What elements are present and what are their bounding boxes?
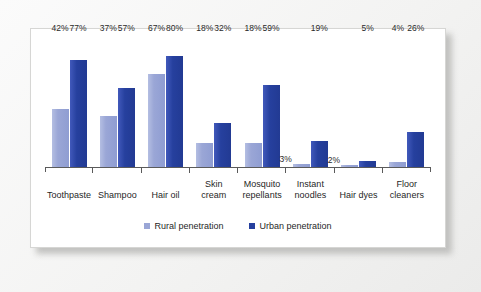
category-label-line1: Mosquito xyxy=(244,179,281,189)
bar-value-label: 19% xyxy=(311,23,328,33)
category-label-line1: Floor xyxy=(397,179,418,189)
bar-wrapper: 42% xyxy=(52,35,69,168)
x-axis-tick xyxy=(335,168,383,173)
x-axis-tick xyxy=(45,168,93,173)
category-label: Floorcleaners xyxy=(377,179,437,201)
bar-group: 18%32%Skincream xyxy=(190,35,238,241)
bar-urban[interactable]: 80% xyxy=(166,56,183,168)
x-axis-tick xyxy=(142,168,190,173)
bar-value-label: 67% xyxy=(148,23,165,33)
bar-urban[interactable]: 26% xyxy=(407,132,424,168)
bar-value-label: 3% xyxy=(279,154,292,164)
bar-value-label: 57% xyxy=(118,23,135,33)
bar-wrapper: 5% xyxy=(359,35,376,168)
bar-value-label: 32% xyxy=(214,23,231,33)
category-label-line1: Toothpaste xyxy=(47,190,91,200)
bar-wrapper: 37% xyxy=(100,35,117,168)
bar-value-label: 26% xyxy=(407,23,424,33)
bar-rural[interactable]: 18% xyxy=(196,143,213,168)
category-label-line1: Hair dyes xyxy=(340,190,378,200)
bar-urban[interactable]: 32% xyxy=(214,123,231,168)
bar-rural[interactable]: 37% xyxy=(100,116,117,168)
legend-item-urban[interactable]: Urban penetration xyxy=(249,221,331,231)
bar-urban[interactable]: 59% xyxy=(263,85,280,168)
x-axis-tick xyxy=(93,168,141,173)
bar-urban[interactable]: 19% xyxy=(311,141,328,168)
x-axis-tick xyxy=(238,168,286,173)
legend-item-rural[interactable]: Rural penetration xyxy=(144,221,223,231)
bar-wrapper: 59% xyxy=(263,35,280,168)
bar-urban[interactable]: 57% xyxy=(118,88,135,168)
bar-group: 3%19%Instantnoodles xyxy=(286,35,334,241)
bar-group: 67%80%Hair oil xyxy=(142,35,190,241)
category-label-line1: Instant xyxy=(297,179,324,189)
bar-wrapper: 32% xyxy=(214,35,231,168)
bar-pair: 3%19% xyxy=(286,35,334,168)
bar-wrapper: 2% xyxy=(341,35,358,168)
bar-wrapper: 26% xyxy=(407,35,424,168)
bar-wrapper: 3% xyxy=(293,35,310,168)
bar-value-label: 80% xyxy=(166,23,183,33)
bar-pair: 18%32% xyxy=(190,35,238,168)
category-label-line2: cleaners xyxy=(377,190,437,201)
chart-legend: Rural penetrationUrban penetration xyxy=(39,221,437,231)
bar-urban[interactable]: 77% xyxy=(70,60,87,168)
category-label-line1: Hair oil xyxy=(152,190,180,200)
bar-pair: 37%57% xyxy=(93,35,141,168)
bar-group: 2%5%Hair dyes xyxy=(335,35,383,241)
legend-swatch-icon xyxy=(144,223,150,229)
bar-value-label: 18% xyxy=(196,23,213,33)
chart-panel: 42%77%Toothpaste37%57%Shampoo67%80%Hair … xyxy=(30,28,446,248)
bar-wrapper: 80% xyxy=(166,35,183,168)
legend-swatch-icon xyxy=(249,223,255,229)
bar-rural[interactable]: 18% xyxy=(245,143,262,168)
plot-area: 42%77%Toothpaste37%57%Shampoo67%80%Hair … xyxy=(39,35,437,241)
legend-label: Urban penetration xyxy=(259,221,331,231)
bar-wrapper: 67% xyxy=(148,35,165,168)
bar-value-label: 5% xyxy=(361,23,374,33)
bar-pair: 42%77% xyxy=(45,35,93,168)
x-axis-tick xyxy=(286,168,334,173)
bar-rural[interactable]: 67% xyxy=(148,74,165,168)
bar-value-label: 2% xyxy=(328,155,341,165)
x-axis-tick xyxy=(383,168,431,173)
bar-rural[interactable]: 42% xyxy=(52,109,69,168)
bar-pair: 2%5% xyxy=(335,35,383,168)
bar-group: 4%26%Floorcleaners xyxy=(383,35,431,241)
bar-value-label: 77% xyxy=(69,23,86,33)
bar-pair: 18%59% xyxy=(238,35,286,168)
bar-wrapper: 19% xyxy=(311,35,328,168)
bar-value-label: 59% xyxy=(262,23,279,33)
bar-value-label: 18% xyxy=(244,23,261,33)
bar-wrapper: 4% xyxy=(389,35,406,168)
legend-label: Rural penetration xyxy=(154,221,223,231)
bar-groups: 42%77%Toothpaste37%57%Shampoo67%80%Hair … xyxy=(45,35,431,241)
bar-pair: 67%80% xyxy=(142,35,190,168)
bar-value-label: 37% xyxy=(100,23,117,33)
category-label-line1: Shampoo xyxy=(98,190,137,200)
bar-wrapper: 18% xyxy=(245,35,262,168)
screenshot-root: 42%77%Toothpaste37%57%Shampoo67%80%Hair … xyxy=(0,0,481,292)
bar-group: 42%77%Toothpaste xyxy=(45,35,93,241)
category-label-line1: Skin xyxy=(205,179,223,189)
bar-wrapper: 77% xyxy=(70,35,87,168)
bar-group: 18%59%Mosquitorepellants xyxy=(238,35,286,241)
x-axis-ticks xyxy=(45,168,431,173)
bar-value-label: 4% xyxy=(392,23,405,33)
x-axis-tick xyxy=(190,168,238,173)
bar-wrapper: 57% xyxy=(118,35,135,168)
bar-wrapper: 18% xyxy=(196,35,213,168)
bar-pair: 4%26% xyxy=(383,35,431,168)
bar-group: 37%57%Shampoo xyxy=(93,35,141,241)
bar-value-label: 42% xyxy=(51,23,68,33)
